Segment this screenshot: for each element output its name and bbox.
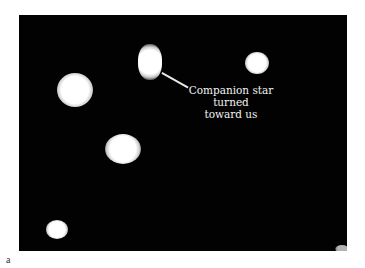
star-field-photo: Companion star turned toward us bbox=[19, 15, 347, 251]
star-bottom-left bbox=[46, 220, 68, 239]
annotation-line-1: Companion star bbox=[186, 84, 276, 96]
star-corner-edge bbox=[335, 245, 347, 251]
annotation-label: Companion star turned toward us bbox=[186, 84, 276, 120]
annotation-line-2: turned bbox=[186, 96, 276, 108]
star-large-left bbox=[57, 73, 93, 107]
panel-label: a bbox=[6, 254, 10, 265]
annotation-pointer-line bbox=[162, 72, 189, 88]
annotation-line-3: toward us bbox=[186, 108, 276, 120]
star-upper-right bbox=[245, 52, 269, 74]
star-companion-pair bbox=[138, 44, 162, 80]
star-middle bbox=[105, 134, 141, 164]
